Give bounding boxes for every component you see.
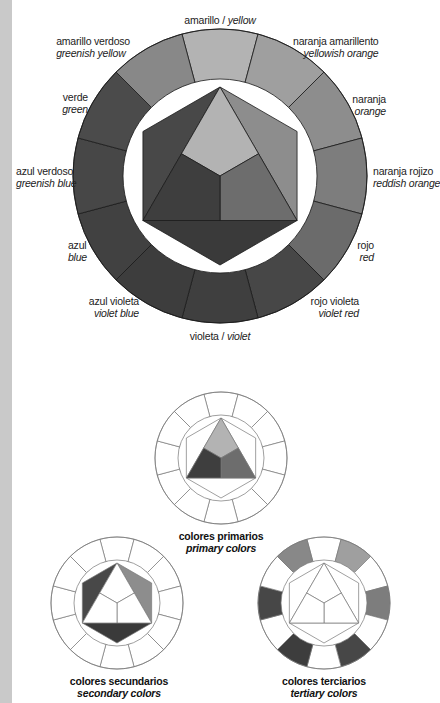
label-en: reddish orange [373, 177, 440, 189]
label-orange: naranja orange [352, 93, 386, 117]
primary-colors-wheel [155, 392, 287, 524]
label-en: green [62, 103, 88, 115]
label-separator: / [219, 330, 227, 342]
label-es: azul [68, 239, 87, 251]
label-blue: azul blue [68, 239, 87, 263]
label-reddish-orange: naranja rojizo reddish orange [373, 165, 440, 189]
label-greenish-yellow: amarillo verdoso greenish yellow [56, 35, 130, 59]
tertiary-colors-wheel [258, 537, 390, 669]
label-es: naranja [352, 93, 386, 105]
label-en: red [357, 251, 374, 263]
caption-es: colores terciarios [282, 675, 366, 687]
label-es: amarillo [184, 14, 219, 26]
label-es: azul verdoso [16, 165, 76, 177]
label-violet: violeta / violet [190, 330, 250, 342]
label-en: blue [68, 251, 87, 263]
label-en: violet red [311, 307, 359, 319]
label-es: rojo violeta [311, 295, 359, 307]
label-en: orange [352, 105, 386, 117]
label-es: naranja amarillento [293, 35, 379, 47]
label-es: rojo [357, 239, 374, 251]
label-en: yellow [228, 14, 256, 26]
caption-en: tertiary colors [282, 687, 366, 699]
label-en: violet [227, 330, 250, 342]
label-es: naranja rojizo [373, 165, 440, 177]
label-greenish-blue: azul verdoso greenish blue [16, 165, 76, 189]
label-es: violeta [190, 330, 219, 342]
wheel-segment [182, 29, 258, 82]
label-yellow: amarillo / yellow [184, 14, 255, 26]
wheel-segment [73, 138, 126, 214]
main-color-wheel [73, 29, 367, 323]
secondary-colors-wheel [51, 537, 183, 669]
caption-es: colores primarios [179, 530, 264, 542]
label-violet-red: rojo violeta violet red [311, 295, 359, 319]
caption-en: secondary colors [70, 687, 168, 699]
caption-en: primary colors [179, 542, 264, 554]
label-es: azul violeta [89, 295, 139, 307]
caption-secondary-colors: colores secundarios secondary colors [70, 675, 168, 699]
caption-es: colores secundarios [70, 675, 168, 687]
wheel-segment [314, 138, 367, 214]
label-es: amarillo verdoso [56, 35, 130, 47]
wheel-segment [182, 270, 258, 323]
label-en: greenish blue [16, 177, 76, 189]
caption-tertiary-colors: colores terciarios tertiary colors [282, 675, 366, 699]
label-en: yellowish orange [293, 47, 379, 59]
label-violet-blue: azul violeta violet blue [89, 295, 139, 319]
label-green: verde green [62, 91, 88, 115]
label-red: rojo red [357, 239, 374, 263]
caption-primary-colors: colores primarios primary colors [179, 530, 264, 554]
label-yellowish-orange: naranja amarillento yellowish orange [293, 35, 379, 59]
label-es: verde [62, 91, 88, 103]
label-en: violet blue [89, 307, 139, 319]
label-en: greenish yellow [56, 47, 130, 59]
